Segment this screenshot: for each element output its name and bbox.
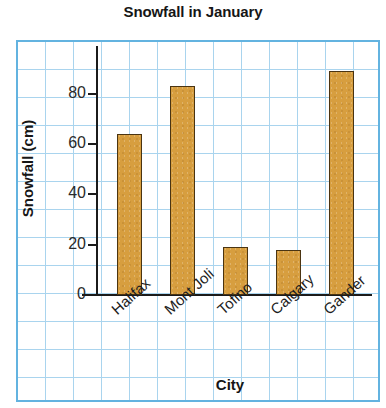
y-tick-label-40: 40 (54, 184, 86, 202)
bar-mont-joli[interactable] (170, 86, 195, 295)
y-axis-title: Snowfall (cm) (19, 79, 36, 259)
y-tick-label-20: 20 (54, 235, 86, 253)
plot-area (96, 46, 364, 295)
y-tick-label-80: 80 (54, 84, 86, 102)
chart-page: Snowfall in January 0 20 40 60 80 Snowfa… (0, 0, 386, 408)
bar-halifax[interactable] (117, 134, 142, 295)
bar-gander[interactable] (329, 71, 354, 295)
y-tick-label-60: 60 (54, 134, 86, 152)
x-axis-title: City (96, 376, 364, 393)
